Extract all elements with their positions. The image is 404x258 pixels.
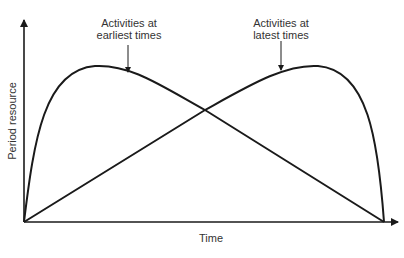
earliest-annotation-line2: earliest times	[97, 29, 162, 41]
y-axis-label: Period resource	[6, 82, 18, 160]
earliest-annotation-line1: Activities at	[101, 17, 157, 29]
earliest-times-curve	[24, 66, 384, 222]
latest-annotation-line2: latest times	[253, 29, 309, 41]
latest-annotation-line1: Activities at	[253, 17, 309, 29]
x-axis-label: Time	[199, 232, 223, 244]
latest-times-curve	[24, 66, 384, 222]
resource-profile-diagram: Activities at earliest times Activities …	[0, 0, 404, 258]
